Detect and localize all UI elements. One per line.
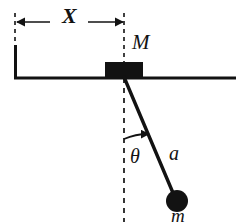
label-bob-mass-m: m [171, 206, 185, 224]
label-block-mass-M: M [132, 32, 150, 53]
angle-arc-theta [124, 134, 148, 139]
label-distance-x: X [62, 5, 77, 27]
label-rod-length-a: a [169, 143, 179, 163]
pendulum-rod [124, 77, 176, 200]
label-angle-theta: θ [130, 146, 140, 166]
diagram-canvas [0, 0, 245, 224]
block-mass-M [105, 62, 143, 77]
physics-diagram: X M θ a m [0, 0, 245, 224]
